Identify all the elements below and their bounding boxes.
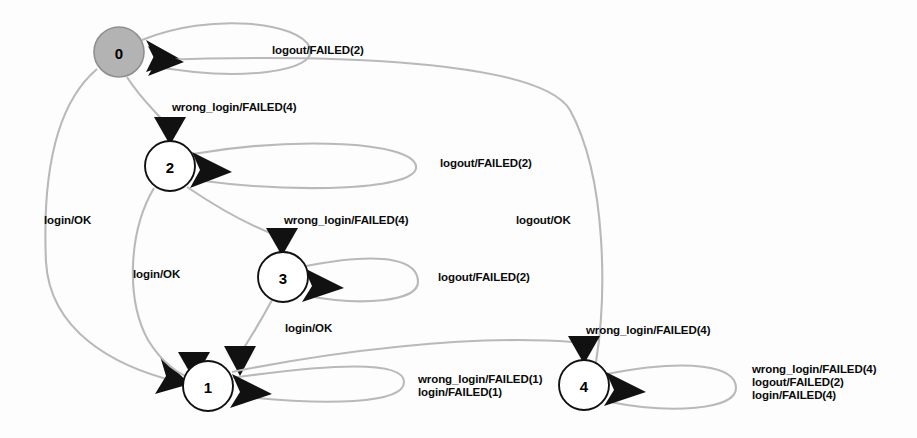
edge-label-0-to-2: wrong_login/FAILED(4) (172, 101, 296, 114)
edge-label-0-to-0: logout/FAILED(2) (272, 44, 364, 57)
state-node-3[interactable]: 3 (258, 252, 308, 302)
edge-2-to-3 (187, 187, 298, 256)
edge-1-to-4 (232, 336, 600, 372)
state-label-1: 1 (204, 379, 212, 396)
state-node-2[interactable]: 2 (145, 141, 195, 191)
edge-label-0-to-1: login/OK (44, 214, 91, 227)
edge-label-4-to-4: wrong_login/FAILED(4) logout/FAILED(2) l… (752, 363, 876, 403)
fsm-diagram-canvas: 0 2 3 1 4 logout/FAILED(2) wrong_login/F… (0, 0, 917, 438)
arrowhead-1-self (230, 374, 272, 408)
edge-4-to-0 (148, 46, 602, 362)
edge-label-3-to-1: login/OK (285, 322, 332, 335)
edge-label-2-to-2: logout/FAILED(2) (440, 157, 532, 170)
edge-label-4-to-0: logout/OK (516, 214, 571, 227)
state-node-0[interactable]: 0 (94, 27, 144, 77)
edge-2-to-1 (133, 188, 210, 380)
state-node-4[interactable]: 4 (559, 360, 609, 410)
edge-label-2-to-1: login/OK (133, 268, 180, 281)
state-label-0: 0 (115, 45, 123, 62)
edge-4-to-4 (604, 366, 736, 409)
state-label-3: 3 (279, 270, 287, 287)
edge-1-to-1 (230, 367, 404, 409)
state-label-2: 2 (166, 159, 174, 176)
edge-3-to-3 (302, 259, 418, 302)
edge-label-3-to-3: logout/FAILED(2) (438, 271, 530, 284)
edge-label-1-to-1: wrong_login/FAILED(1) login/FAILED(1) (418, 373, 542, 399)
edge-2-to-2 (190, 144, 416, 189)
state-label-4: 4 (580, 378, 589, 395)
state-node-1[interactable]: 1 (183, 361, 233, 411)
edge-label-1-to-4: wrong_login/FAILED(4) (586, 324, 710, 337)
edge-label-2-to-3: wrong_login/FAILED(4) (284, 214, 408, 227)
arrowhead-4-self (604, 372, 646, 406)
